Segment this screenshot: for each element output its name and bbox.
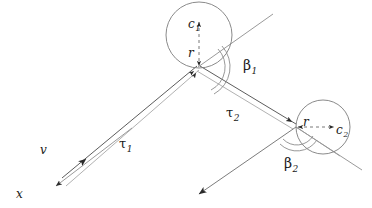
vertex1-incoming-arrow-a: [176, 71, 194, 85]
label-tau1-sub: 1: [126, 144, 132, 154]
label-r2-base: r: [303, 115, 309, 129]
figure-canvas: [0, 0, 372, 208]
exit-ray-from-vertex2: [199, 127, 296, 194]
geometry-figure: c1 r c2 r β1 β2 τ1 τ2 v x: [0, 0, 372, 208]
vertex1-incoming-arrow-b: [185, 73, 196, 90]
label-tau2-sub: 2: [233, 113, 239, 123]
label-x: x: [16, 185, 23, 201]
beta1-arc-group: [211, 46, 230, 94]
tangent-lines-group: [198, 14, 362, 170]
label-v: v: [40, 141, 47, 157]
label-beta1: β1: [243, 57, 257, 76]
label-c2: c2: [336, 121, 348, 139]
label-r1: r: [188, 44, 194, 60]
tau2-rail-lower: [197, 71, 293, 129]
label-r1-base: r: [188, 46, 194, 60]
label-c1-base: c: [188, 17, 195, 31]
label-tau2: τ2: [226, 104, 239, 123]
label-c1-sub: 1: [195, 24, 201, 33]
label-tau1: τ1: [119, 135, 132, 154]
label-c1: c1: [188, 15, 200, 33]
circle-1-group: [166, 2, 232, 68]
label-c2-sub: 2: [343, 130, 349, 139]
label-beta2-base: β: [284, 155, 292, 171]
label-beta2: β2: [284, 155, 298, 174]
label-v-base: v: [40, 143, 47, 157]
velocity-arrow-v: [58, 159, 86, 182]
label-beta2-sub: 2: [292, 164, 298, 174]
label-r2: r: [303, 113, 309, 129]
label-beta1-sub: 1: [251, 66, 257, 76]
tau1-rail-lower: [66, 70, 199, 186]
label-c2-base: c: [336, 123, 343, 137]
tangent-ray-upper-right: [198, 14, 273, 67]
label-x-base: x: [16, 187, 23, 201]
exit-ray-group: [199, 127, 296, 194]
tau1-rail-upper: [62, 66, 197, 178]
label-beta1-base: β: [243, 57, 251, 73]
